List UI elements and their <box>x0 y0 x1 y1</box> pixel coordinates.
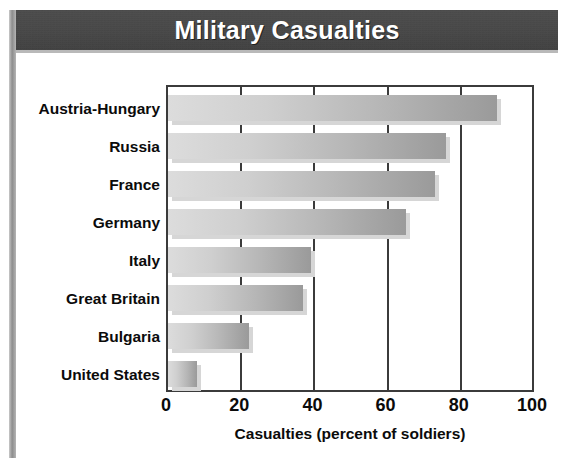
bar-row <box>168 209 411 235</box>
category-label: Bulgaria <box>0 329 160 345</box>
bar-row <box>168 171 440 197</box>
bar-row <box>168 285 308 311</box>
bar <box>168 285 303 311</box>
x-tick-label: 80 <box>449 396 469 414</box>
category-label: Germany <box>0 215 160 231</box>
category-label: France <box>0 177 160 193</box>
bar <box>168 133 446 159</box>
bars-layer <box>168 87 532 390</box>
bar-row <box>168 95 502 121</box>
x-tick-label: 100 <box>517 396 547 414</box>
bar <box>168 361 197 387</box>
page-title: Military Casualties <box>174 16 399 45</box>
category-label: Italy <box>0 253 160 269</box>
bar <box>168 323 249 349</box>
bar <box>168 209 406 235</box>
category-label: Austria-Hungary <box>0 101 160 117</box>
category-label: Great Britain <box>0 291 160 307</box>
bar <box>168 247 311 273</box>
x-tick-label: 60 <box>376 396 396 414</box>
bar-row <box>168 247 316 273</box>
category-label: Russia <box>0 139 160 155</box>
bar <box>168 171 435 197</box>
chart-title-band: Military Casualties <box>16 10 558 53</box>
bar-row <box>168 133 451 159</box>
x-tick-label: 20 <box>229 396 249 414</box>
x-tick-label: 0 <box>161 396 171 414</box>
x-axis-title: Casualties (percent of soldiers) <box>166 425 534 443</box>
category-axis-labels: Austria-HungaryRussiaFranceGermanyItalyG… <box>0 85 160 392</box>
x-tick-label: 40 <box>302 396 322 414</box>
chart-figure: Military Casualties Austria-HungaryRussi… <box>0 0 566 467</box>
bar <box>168 95 497 121</box>
category-label: United States <box>0 367 160 383</box>
bar-row <box>168 323 254 349</box>
plot-area <box>166 85 534 392</box>
bar-row <box>168 361 202 387</box>
x-axis-tick-labels: 020406080100 <box>0 396 566 422</box>
